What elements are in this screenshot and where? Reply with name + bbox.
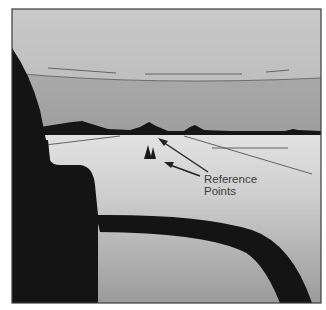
label-line-1: Reference (204, 173, 257, 185)
cockpit-view-illustration (0, 0, 326, 310)
label-line-2: Points (204, 185, 257, 197)
reference-points-label: Reference Points (204, 173, 257, 197)
